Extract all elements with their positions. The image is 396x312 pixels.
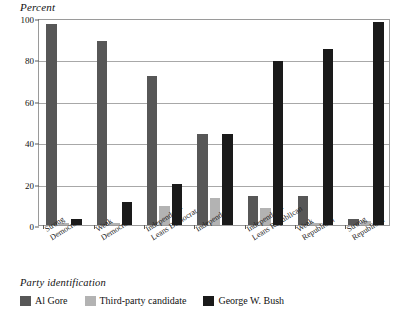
plot-area: 020406080100 bbox=[38, 19, 390, 226]
bar bbox=[197, 134, 208, 225]
legend-swatch bbox=[203, 296, 214, 306]
bar bbox=[273, 61, 284, 225]
legend-title: Party identification bbox=[20, 277, 106, 288]
legend: Al GoreThird-party candidateGeorge W. Bu… bbox=[20, 295, 294, 306]
bar bbox=[147, 76, 158, 225]
y-axis-title: Percent bbox=[20, 1, 55, 13]
bar-series-layer bbox=[39, 20, 389, 225]
legend-swatch bbox=[85, 296, 96, 306]
legend-swatch bbox=[20, 296, 31, 306]
bar bbox=[323, 49, 334, 225]
bar bbox=[373, 22, 384, 225]
y-tick-label: 100 bbox=[21, 15, 35, 25]
y-tick-label: 60 bbox=[25, 98, 34, 108]
legend-item[interactable]: Al Gore bbox=[20, 295, 68, 306]
legend-item[interactable]: Third-party candidate bbox=[85, 295, 187, 306]
y-tick-label: 80 bbox=[25, 56, 34, 66]
bar bbox=[46, 24, 57, 225]
y-tick-label: 0 bbox=[30, 222, 35, 232]
y-tick-label: 40 bbox=[25, 139, 34, 149]
legend-label: George W. Bush bbox=[218, 295, 284, 306]
legend-label: Third-party candidate bbox=[100, 295, 187, 306]
y-tick-label: 20 bbox=[25, 181, 34, 191]
bar bbox=[97, 41, 108, 225]
x-axis-category-labels: StrongDemocratWeakDemocratIndependent-Le… bbox=[38, 226, 390, 278]
legend-item[interactable]: George W. Bush bbox=[203, 295, 284, 306]
legend-label: Al Gore bbox=[35, 295, 68, 306]
